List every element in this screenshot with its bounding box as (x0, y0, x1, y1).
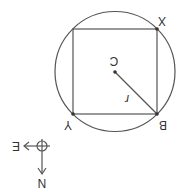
label-b: B (159, 118, 167, 132)
label-y: Y (64, 118, 72, 132)
inscribed-square-diagram: C r X Y B E N (0, 0, 180, 192)
compass-icon (24, 139, 50, 174)
label-r: r (124, 92, 129, 106)
label-c: C (109, 54, 118, 68)
center-point (113, 70, 117, 74)
vertex-y-point (71, 112, 75, 116)
label-east: E (12, 139, 20, 153)
label-north: N (38, 176, 47, 190)
label-x: X (158, 14, 166, 28)
vertex-b-point (155, 112, 159, 116)
radius-line (115, 72, 157, 114)
